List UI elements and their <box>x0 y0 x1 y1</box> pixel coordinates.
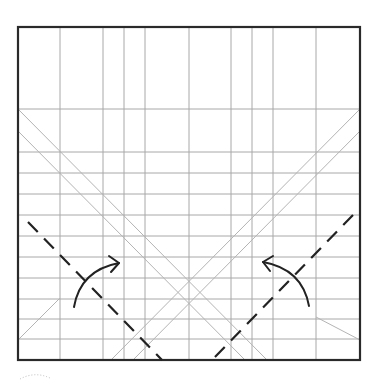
diagonal-crease <box>111 109 360 360</box>
diagonal-crease <box>133 131 360 360</box>
valley-fold-lines <box>28 215 353 360</box>
origami-diagram <box>0 0 380 387</box>
diagonal-crease <box>18 109 267 360</box>
diagonal-crease <box>316 317 360 340</box>
faint-dotted-mark <box>20 375 50 379</box>
